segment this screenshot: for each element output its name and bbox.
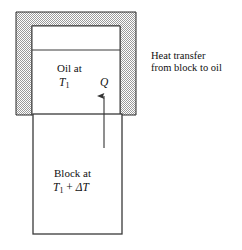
caption-line-1: Heat transfer xyxy=(151,50,222,62)
heat-quantity-label: Q xyxy=(100,76,108,90)
block-at-label: Block at xyxy=(54,167,91,180)
heat-transfer-figure: Oil at T1 Q Block at T1 + ΔT Heat transf… xyxy=(0,0,242,250)
figure-canvas xyxy=(0,0,242,250)
block-temp-delta: ΔT xyxy=(76,181,89,193)
figure-caption: Heat transfer from block to oil xyxy=(151,50,222,75)
block-temp-operator: + xyxy=(63,181,75,193)
block-temperature-label: T1 + ΔT xyxy=(53,181,89,196)
oil-temperature-label: T1 xyxy=(59,76,69,91)
oil-temp-subscript: 1 xyxy=(65,81,69,90)
oil-at-label: Oil at xyxy=(57,62,82,75)
caption-line-2: from block to oil xyxy=(151,62,222,74)
